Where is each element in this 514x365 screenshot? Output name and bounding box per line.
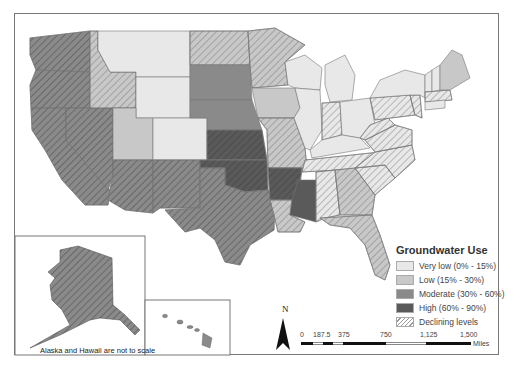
state-vermont bbox=[425, 70, 432, 92]
state-connecticut bbox=[425, 100, 445, 110]
state-new-hampshire bbox=[432, 65, 440, 92]
legend-item-low: Low (15% - 30%) bbox=[396, 273, 505, 286]
north-label: N bbox=[282, 304, 289, 314]
scale-unit: Miles bbox=[473, 340, 489, 347]
state-south-dakota bbox=[190, 65, 252, 100]
state-montana bbox=[98, 31, 190, 77]
legend-item-very-low: Very low (0% - 15%) bbox=[396, 259, 505, 272]
legend-item-declining: Declining levels bbox=[396, 315, 505, 328]
state-iowa bbox=[252, 88, 300, 118]
scale-tick-2: 375 bbox=[338, 331, 350, 338]
scale-tick-0: 0 bbox=[300, 331, 304, 338]
legend: Groundwater Use Very low (0% - 15%) Low … bbox=[396, 244, 505, 329]
scale-tick-3: 750 bbox=[380, 331, 392, 338]
swatch-low bbox=[396, 275, 414, 285]
state-oregon bbox=[30, 70, 90, 108]
scale-tick-5: 1,500 bbox=[460, 331, 478, 338]
state-kansas bbox=[207, 130, 267, 160]
state-michigan bbox=[325, 55, 355, 102]
legend-item-moderate: Moderate (30% - 60%) bbox=[396, 287, 505, 300]
state-colorado bbox=[153, 118, 207, 160]
inset-scale-note: Alaska and Hawaii are not to scale bbox=[40, 346, 155, 355]
state-florida bbox=[320, 215, 390, 280]
swatch-very-low bbox=[396, 261, 414, 271]
legend-label: Very low (0% - 15%) bbox=[419, 261, 496, 271]
swatch-declining bbox=[396, 317, 414, 327]
state-arizona bbox=[108, 160, 153, 213]
scale-tick-1: 187.5 bbox=[313, 331, 331, 338]
state-pennsylvania bbox=[370, 95, 415, 120]
north-arrow-icon bbox=[276, 318, 290, 350]
state-indiana bbox=[322, 102, 342, 140]
swatch-moderate bbox=[396, 289, 414, 299]
scale-bar bbox=[301, 342, 471, 345]
state-new-york bbox=[370, 70, 425, 98]
legend-label: Moderate (30% - 60%) bbox=[419, 289, 505, 299]
legend-label: Low (15% - 30%) bbox=[419, 275, 484, 285]
legend-item-high: High (60% - 90%) bbox=[396, 301, 505, 314]
state-massachusetts bbox=[425, 90, 452, 102]
swatch-high bbox=[396, 303, 414, 313]
legend-label: Declining levels bbox=[419, 317, 478, 327]
state-north-dakota bbox=[190, 31, 250, 65]
legend-title: Groundwater Use bbox=[396, 244, 505, 256]
state-wyoming bbox=[136, 77, 190, 118]
scale-tick-4: 1,125 bbox=[420, 331, 438, 338]
state-washington bbox=[30, 31, 90, 72]
state-maine bbox=[440, 50, 470, 90]
state-wisconsin bbox=[285, 55, 322, 90]
state-new-mexico bbox=[153, 160, 200, 213]
legend-label: High (60% - 90%) bbox=[419, 303, 486, 313]
